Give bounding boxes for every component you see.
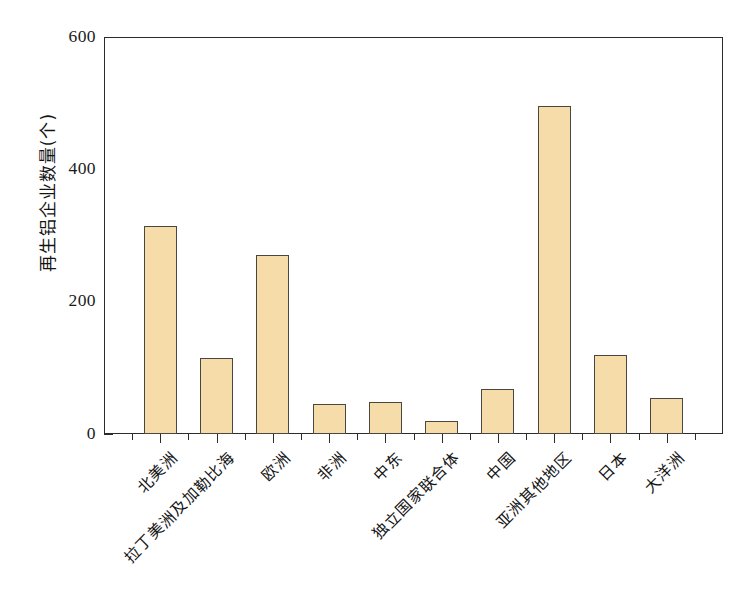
x-tick-major-9 (667, 434, 668, 443)
bar-非洲 (313, 404, 346, 434)
x-tick-major-5 (442, 434, 443, 443)
bar-chart: 再生铝企业数量(个) 600 400 200 0 北美洲拉丁美洲及加勒比海欧洲非… (0, 0, 750, 611)
bar-series (104, 37, 723, 434)
y-axis-tick-labels: 600 400 200 0 (24, 0, 96, 611)
bar-独立国家联合体 (425, 421, 458, 434)
y-tick-label-0: 0 (36, 425, 96, 443)
y-tick-label-600: 600 (36, 28, 96, 46)
x-category-text: 日本 (593, 446, 632, 485)
x-tick-major-7 (554, 434, 555, 443)
bar-北美洲 (144, 226, 177, 434)
bar-中东 (369, 402, 402, 434)
x-tick-major-2 (273, 434, 274, 443)
x-category-text: 欧洲 (255, 446, 294, 485)
x-category-text: 中国 (481, 446, 520, 485)
x-category-text: 北美洲 (131, 446, 182, 497)
y-tick-0 (104, 434, 113, 435)
x-tick-major-8 (610, 434, 611, 443)
x-tick-major-0 (160, 434, 161, 443)
x-tick-minor-start (132, 434, 133, 440)
x-tick-major-1 (217, 434, 218, 443)
x-category-text: 大洋洲 (638, 446, 689, 497)
x-category-text: 非洲 (312, 446, 351, 485)
x-tick-major-6 (498, 434, 499, 443)
x-tick-major-4 (385, 434, 386, 443)
x-category-text: 中东 (368, 446, 407, 485)
bar-大洋洲 (650, 398, 683, 434)
x-tick-major-3 (329, 434, 330, 443)
y-tick-label-200: 200 (36, 292, 96, 310)
y-tick-label-400: 400 (36, 160, 96, 178)
bar-亚洲其他地区 (538, 106, 571, 434)
